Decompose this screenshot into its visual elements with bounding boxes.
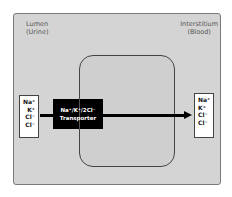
interstitium-label: Interstitium (Blood) [180,20,218,36]
lumen-subtitle: (Urine) [26,28,48,36]
interstitium-subtitle: (Blood) [180,28,218,36]
interstitium-title: Interstitium [180,20,218,28]
ion-na: Na⁺ [23,98,35,106]
lumen-title: Lumen [26,20,48,28]
interstitium-ion-box: Na⁺ K⁺ Cl⁻ Cl⁻ [194,93,214,138]
ion-k: K⁺ [23,106,35,114]
ion-cl: Cl⁻ [23,113,35,121]
nkcc-transporter: Na⁺/K⁺/2Cl⁻ Transporter [53,99,103,129]
lumen-ion-box: Na⁺ K⁺ Cl⁻ Cl⁻ [19,95,39,138]
ion-k: K⁺ [198,104,210,112]
ion-cl: Cl⁻ [198,119,210,127]
transporter-label: Transporter [53,114,103,122]
transporter-name: Na⁺/K⁺/2Cl⁻ [53,106,103,114]
ion-cl: Cl⁻ [198,111,210,119]
ion-na: Na⁺ [198,96,210,104]
arrow-head-icon [184,111,192,119]
lumen-label: Lumen (Urine) [26,20,48,36]
ion-cl: Cl⁻ [23,121,35,129]
